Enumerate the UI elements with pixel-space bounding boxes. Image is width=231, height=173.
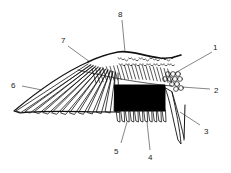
lesser-covert: [146, 60, 149, 61]
covert-feather: [150, 66, 154, 80]
lesser-covert: [119, 64, 122, 65]
secondary-feather: [121, 110, 125, 122]
leader-line-4: [147, 122, 150, 150]
scapular-scale: [178, 77, 183, 82]
lesser-covert: [122, 59, 125, 60]
secondary-feather: [130, 110, 134, 122]
scapular-scale: [179, 86, 184, 91]
secondary-feather: [125, 110, 129, 122]
secondary-feather: [162, 110, 166, 122]
covert-feather: [153, 67, 157, 81]
covert-feather: [124, 65, 128, 79]
lesser-covert: [126, 64, 129, 65]
lesser-covert: [118, 58, 121, 59]
covert-feather: [135, 65, 139, 79]
covert-feather: [142, 66, 146, 80]
lesser-covert: [139, 58, 142, 59]
secondary-feather: [144, 110, 148, 122]
lesser-covert: [133, 64, 136, 65]
primary-feather: [16, 64, 91, 113]
leader-line-2: [182, 87, 210, 89]
lesser-covert: [157, 60, 160, 61]
lesser-covert: [125, 60, 128, 61]
scapular-scale: [173, 77, 178, 82]
covert-feather: [110, 66, 114, 80]
tertial-line: [184, 105, 185, 140]
scapular-scale: [175, 82, 180, 87]
lesser-covert: [150, 58, 153, 59]
lesser-covert: [143, 59, 146, 60]
label-3: 3: [204, 127, 209, 136]
lesser-covert: [153, 59, 156, 60]
lesser-covert: [164, 59, 167, 60]
label-2: 2: [214, 86, 219, 95]
lesser-covert: [172, 65, 175, 66]
primary-feathers: [16, 64, 119, 114]
lesser-covert: [168, 64, 171, 65]
lesser-covert: [136, 60, 139, 61]
lesser-covert: [130, 65, 133, 66]
lesser-covert: [147, 64, 150, 65]
scapular-scale: [166, 72, 171, 77]
secondary-feather: [148, 110, 152, 122]
secondary-feather: [153, 110, 157, 122]
covert-feather: [157, 67, 161, 81]
covert-feather: [146, 66, 150, 80]
lesser-covert: [158, 65, 161, 66]
lesser-covert: [161, 64, 164, 65]
lesser-covert: [132, 59, 135, 60]
label-1: 1: [213, 43, 218, 52]
leader-line-6: [22, 86, 42, 90]
speculum-patch: [115, 85, 165, 111]
label-7: 7: [61, 36, 66, 45]
lesser-covert: [123, 65, 126, 66]
leader-line-7: [68, 46, 90, 62]
lesser-covert: [165, 65, 168, 66]
lesser-covert: [151, 65, 154, 66]
lesser-covert: [154, 64, 157, 65]
lesser-covert: [167, 60, 170, 61]
secondary-feather: [157, 110, 161, 122]
covert-feather: [139, 65, 143, 79]
label-8: 8: [118, 10, 123, 19]
covert-feather: [132, 65, 136, 79]
label-6: 6: [11, 81, 16, 90]
lesser-covert: [137, 65, 140, 66]
wing-diagram: 1 2 3 4 5 6 7 8: [0, 0, 231, 173]
leader-line-5: [121, 122, 127, 143]
secondary-feather: [134, 110, 138, 122]
leader-line-3: [180, 112, 200, 125]
secondary-feathers: [116, 110, 166, 122]
lesser-covert: [144, 65, 147, 66]
tertial-feathers: [165, 88, 184, 144]
label-5: 5: [114, 147, 119, 156]
leader-line-8: [122, 20, 125, 52]
lesser-covert: [129, 58, 132, 59]
lesser-covert: [140, 64, 143, 65]
wing-drawing: [14, 52, 185, 144]
secondary-feather: [139, 110, 143, 122]
scapular-scale: [174, 87, 179, 92]
covert-feather: [128, 65, 132, 79]
scapular-scale: [171, 72, 176, 77]
label-4: 4: [148, 153, 153, 162]
covert-feather: [121, 65, 125, 79]
